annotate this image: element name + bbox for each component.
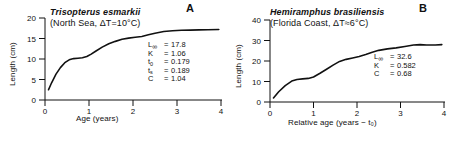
svg-text:2: 2	[131, 107, 136, 116]
species-name-b: Hemiramphus brasiliensis	[270, 7, 384, 18]
svg-text:2: 2	[355, 109, 360, 118]
svg-text:20: 20	[27, 14, 36, 23]
param-symbol: C	[148, 75, 164, 84]
param-equals: =	[164, 75, 171, 84]
svg-text:0: 0	[268, 109, 273, 118]
param-equals: =	[390, 70, 397, 79]
param-symbol: ts	[148, 67, 164, 76]
habitat-a: (North Sea, ΔT=10°C)	[50, 18, 140, 29]
growth-curve-a	[49, 29, 219, 89]
x-ticks-a: 0 1 2 3 4	[43, 100, 224, 116]
y-axis-label-a: Length (cm)	[8, 42, 17, 86]
param-row: C = 1.04	[148, 75, 190, 84]
param-symbol: K	[148, 50, 164, 59]
panel-a: A 0 5 10 15 20	[0, 0, 230, 150]
y-ticks-a: 0 5 10 15 20	[27, 14, 45, 105]
svg-text:1: 1	[311, 109, 316, 118]
svg-text:20: 20	[252, 57, 261, 66]
title-block-a: Trisopterus esmarkii (North Sea, ΔT=10°C…	[50, 7, 140, 29]
x-axis-label-a: Age (years)	[76, 114, 118, 123]
svg-text:5: 5	[32, 76, 37, 85]
svg-text:15: 15	[27, 35, 36, 44]
growth-curve-b	[273, 45, 441, 98]
x-axis-label-b: Relative age (years − t₀)	[288, 118, 377, 127]
svg-text:10: 10	[252, 78, 261, 87]
param-row: C = 0.68	[374, 70, 416, 79]
y-ticks-b: 0 10 20 30 40	[252, 16, 270, 107]
svg-text:0: 0	[32, 96, 37, 105]
param-value: 1.04	[171, 75, 186, 84]
param-value: 0.68	[397, 70, 412, 79]
svg-text:0: 0	[257, 98, 262, 107]
species-name-a: Trisopterus esmarkii	[50, 7, 140, 18]
y-axis-label-b: Length (cm)	[234, 44, 243, 88]
svg-text:40: 40	[252, 16, 261, 25]
svg-text:3: 3	[398, 109, 403, 118]
x-ticks-b: 0 1 2 3 4	[268, 102, 447, 118]
param-symbol: t0	[148, 58, 164, 67]
svg-text:0: 0	[43, 107, 48, 116]
title-block-b: Hemiramphus brasiliensis (Florida Coast,…	[270, 7, 384, 29]
param-block-b: L∞ = 32.6 K = 0.582 C = 0.68	[374, 53, 416, 79]
param-symbol: C	[374, 70, 390, 79]
svg-text:4: 4	[219, 107, 224, 116]
figure-container: A 0 5 10 15 20	[0, 0, 460, 150]
svg-text:10: 10	[27, 55, 36, 64]
svg-text:4: 4	[442, 109, 447, 118]
svg-text:30: 30	[252, 37, 261, 46]
svg-text:3: 3	[175, 107, 180, 116]
panel-b: B 0 10 20 30 40 0	[230, 0, 460, 150]
habitat-b: (Florida Coast, ΔT≈6°C)	[270, 18, 384, 29]
param-block-a: L∞ = 17.8 K = 1.06 t0 = 0.179 ts = 0.189…	[148, 41, 190, 84]
